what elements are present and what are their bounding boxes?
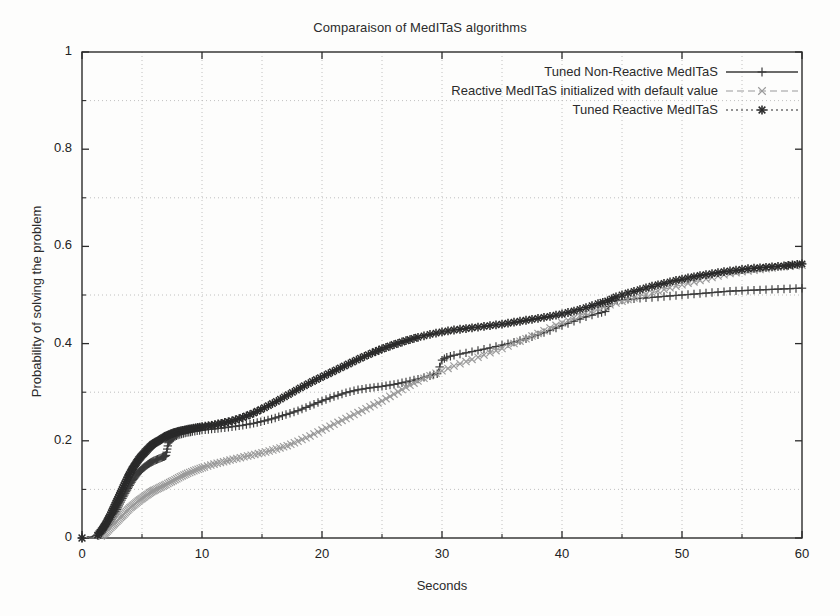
legend-item-3[interactable]: Tuned Reactive MedITaS — [300, 100, 800, 119]
data-marker — [630, 287, 639, 296]
data-marker — [350, 387, 358, 395]
legend-sample-plus-icon — [724, 63, 800, 81]
data-marker — [414, 333, 423, 342]
data-marker — [257, 417, 265, 425]
data-marker — [334, 391, 342, 399]
data-marker — [267, 415, 275, 423]
data-marker — [326, 394, 334, 402]
series-2 — [78, 262, 805, 542]
data-marker — [576, 305, 585, 314]
data-marker — [654, 280, 663, 289]
y-tick-label: 1 — [20, 43, 72, 58]
x-tick-label: 30 — [417, 546, 467, 561]
data-marker — [253, 418, 261, 426]
data-marker — [450, 362, 457, 369]
data-marker — [757, 105, 766, 114]
data-marker — [302, 403, 310, 411]
data-marker — [386, 381, 394, 389]
data-marker — [282, 410, 290, 418]
data-marker — [456, 360, 463, 367]
y-axis-label: Probability of solving the problem — [29, 162, 44, 442]
data-marker — [271, 414, 279, 422]
data-marker — [636, 285, 645, 294]
y-tick-label: 0.6 — [20, 237, 72, 252]
data-marker — [660, 279, 669, 288]
data-marker — [390, 380, 398, 388]
data-marker — [666, 277, 675, 286]
data-marker — [758, 67, 767, 76]
data-marker — [798, 284, 806, 292]
data-marker — [362, 384, 370, 392]
x-tick-label: 0 — [57, 546, 107, 561]
legend-item-2[interactable]: Reactive MedITaS initialized with defaul… — [300, 81, 800, 100]
data-marker — [342, 388, 350, 396]
data-marker — [468, 356, 475, 363]
data-marker — [310, 400, 318, 408]
data-marker — [570, 307, 579, 316]
data-marker — [358, 385, 366, 393]
data-marker — [249, 419, 257, 427]
data-marker — [394, 379, 402, 387]
data-marker — [290, 408, 298, 416]
data-marker — [642, 284, 651, 293]
data-marker — [624, 289, 633, 298]
chart-figure: Comparaison of MedITaS algorithms Probab… — [0, 0, 840, 616]
data-marker — [382, 382, 390, 390]
data-marker — [275, 413, 283, 421]
data-marker — [564, 308, 573, 317]
data-marker — [318, 397, 326, 405]
legend-item-1[interactable]: Tuned Non-Reactive MedITaS — [300, 62, 800, 81]
data-marker — [260, 417, 268, 425]
data-marker — [444, 365, 451, 372]
x-tick-label: 40 — [537, 546, 587, 561]
series-1 — [78, 284, 806, 542]
chart-legend: Tuned Non-Reactive MedITaSReactive MedIT… — [300, 62, 800, 119]
data-marker — [450, 351, 458, 359]
data-marker — [420, 331, 429, 340]
y-tick-label: 0.2 — [20, 432, 72, 447]
x-axis-label: Seconds — [82, 578, 802, 593]
data-marker — [322, 395, 330, 403]
data-marker — [264, 416, 272, 424]
data-marker — [474, 354, 481, 361]
data-marker — [354, 386, 362, 394]
data-marker — [474, 346, 482, 354]
x-tick-label: 10 — [177, 546, 227, 561]
data-marker — [294, 406, 302, 414]
y-tick-label: 0 — [20, 529, 72, 544]
series-markers — [78, 262, 805, 542]
data-marker — [306, 402, 314, 410]
x-tick-label: 20 — [297, 546, 347, 561]
legend-sample-x-icon — [724, 82, 800, 100]
y-tick-label: 0.8 — [20, 140, 72, 155]
data-marker — [462, 358, 469, 365]
data-marker — [298, 405, 306, 413]
data-marker — [338, 390, 346, 398]
data-marker — [798, 259, 807, 268]
data-marker — [456, 350, 464, 358]
data-marker — [346, 388, 354, 396]
data-marker — [314, 398, 322, 406]
data-marker — [378, 382, 386, 390]
legend-label: Tuned Reactive MedITaS — [573, 102, 718, 117]
data-marker — [330, 392, 338, 400]
legend-label: Tuned Non-Reactive MedITaS — [544, 64, 718, 79]
data-marker — [558, 310, 567, 319]
data-marker — [286, 409, 294, 417]
legend-label: Reactive MedITaS initialized with defaul… — [451, 83, 718, 98]
y-tick-label: 0.4 — [20, 335, 72, 350]
data-marker — [78, 534, 87, 543]
x-tick-label: 60 — [777, 546, 827, 561]
series-markers — [78, 284, 806, 542]
data-marker — [246, 420, 254, 428]
legend-sample-asterisk-icon — [724, 101, 800, 119]
data-marker — [278, 411, 286, 419]
series-line — [82, 265, 802, 538]
data-marker — [648, 282, 657, 291]
x-tick-label: 50 — [657, 546, 707, 561]
